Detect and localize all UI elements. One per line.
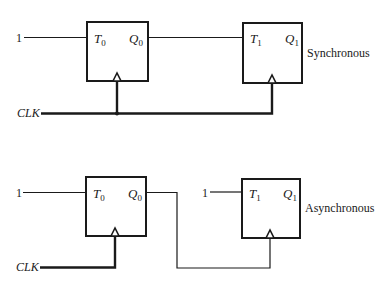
sync-clk-wire [41, 83, 272, 114]
asynchronous-circuit: 1 T0 Q0 1 T1 Q1 Asynchronous CLK [16, 177, 375, 274]
flip-flop-diagram: 1 T0 Q0 T1 Q1 Synchronous CLK 1 T0 Q0 [0, 0, 391, 282]
async-clk-label: CLK [16, 260, 40, 274]
async-clk-wire [40, 236, 115, 268]
synchronous-circuit: 1 T0 Q0 T1 Q1 Synchronous CLK [16, 22, 370, 120]
async-label: Asynchronous [305, 201, 375, 215]
async-input-one-ff0: 1 [16, 186, 22, 200]
sync-clk-junction-dot [115, 112, 119, 116]
sync-clk-label: CLK [17, 106, 41, 120]
async-input-one-ff1: 1 [202, 186, 208, 200]
sync-input-one: 1 [16, 31, 22, 45]
sync-label: Synchronous [307, 46, 370, 60]
